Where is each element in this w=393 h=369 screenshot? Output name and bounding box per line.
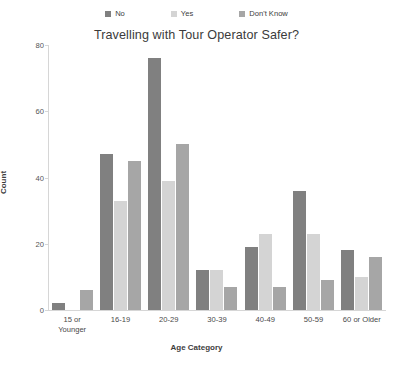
bar[interactable]	[307, 234, 320, 310]
x-tick-label: 60 or Older	[338, 315, 386, 334]
bar[interactable]	[293, 191, 306, 310]
bar[interactable]	[148, 58, 161, 310]
y-tick-label: 0	[0, 306, 44, 315]
x-axis-tick-labels: 15 orYounger16-1920-2930-3940-4950-5960 …	[48, 315, 386, 334]
x-tick-label: 20-29	[145, 315, 193, 334]
legend-swatch-yes	[171, 11, 177, 17]
bar[interactable]	[196, 270, 209, 310]
legend-label-dont-know: Don't Know	[249, 10, 288, 18]
bar[interactable]	[162, 181, 175, 310]
bar[interactable]	[273, 287, 286, 310]
legend-swatch-no	[105, 11, 111, 17]
bar-group	[241, 45, 289, 310]
x-axis-title: Age Category	[0, 343, 393, 352]
bar[interactable]	[80, 290, 93, 310]
chart-title: Travelling with Tour Operator Safer?	[0, 28, 393, 42]
bar[interactable]	[355, 277, 368, 310]
y-tick-label: 20	[0, 239, 44, 248]
bar[interactable]	[176, 144, 189, 310]
bar[interactable]	[369, 257, 382, 310]
y-tick-label: 80	[0, 41, 44, 50]
bar[interactable]	[128, 161, 141, 310]
bar[interactable]	[224, 287, 237, 310]
x-tick-label: 30-39	[193, 315, 241, 334]
bar-chart: No Yes Don't Know Travelling with Tour O…	[0, 0, 393, 369]
x-tick-label: 16-19	[96, 315, 144, 334]
bar[interactable]	[341, 250, 354, 310]
legend-item-dont-know[interactable]: Don't Know	[239, 10, 288, 18]
bar-groups	[48, 45, 386, 310]
bar-group	[193, 45, 241, 310]
y-tick-label: 40	[0, 173, 44, 182]
bar-group	[289, 45, 337, 310]
bar[interactable]	[114, 201, 127, 310]
legend-label-yes: Yes	[181, 10, 193, 18]
chart-legend: No Yes Don't Know	[0, 10, 393, 18]
bar[interactable]	[259, 234, 272, 310]
legend-item-no[interactable]: No	[105, 10, 125, 18]
x-tick-label: 40-49	[241, 315, 289, 334]
bar-group	[145, 45, 193, 310]
legend-item-yes[interactable]: Yes	[171, 10, 193, 18]
bar[interactable]	[245, 247, 258, 310]
legend-swatch-dont-know	[239, 11, 245, 17]
bar[interactable]	[100, 154, 113, 310]
x-axis-line	[48, 310, 386, 311]
x-tick-label: 50-59	[289, 315, 337, 334]
bar-group	[96, 45, 144, 310]
bar[interactable]	[321, 280, 334, 310]
bar-group	[48, 45, 96, 310]
y-tick-label: 60	[0, 107, 44, 116]
legend-label-no: No	[115, 10, 125, 18]
bar[interactable]	[210, 270, 223, 310]
plot-area	[48, 45, 386, 310]
bar-group	[338, 45, 386, 310]
x-tick-label: 15 orYounger	[48, 315, 96, 334]
bar[interactable]	[52, 303, 65, 310]
